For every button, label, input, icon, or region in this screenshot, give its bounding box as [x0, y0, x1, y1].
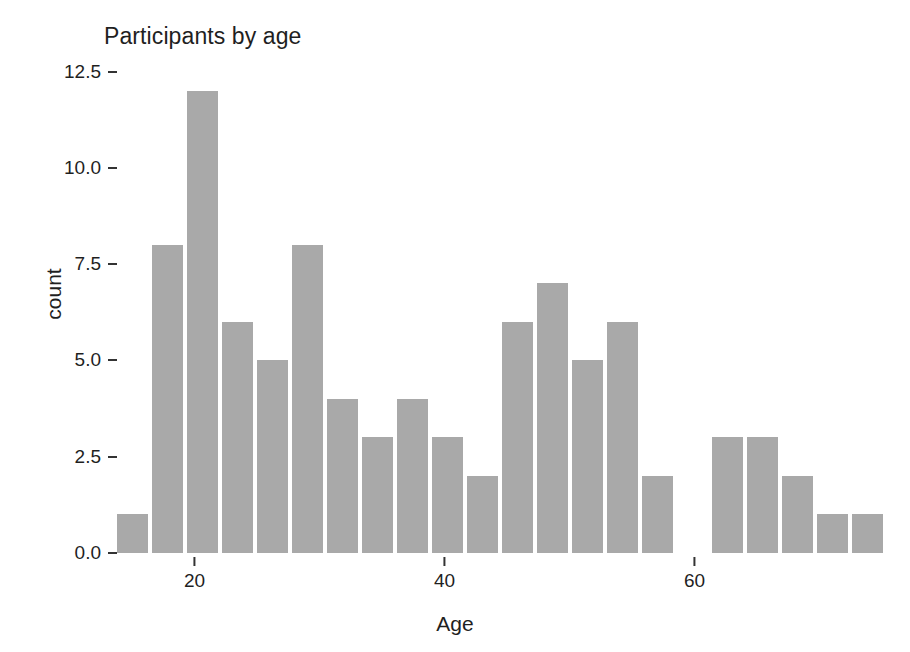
bar: [117, 514, 148, 553]
bar: [782, 476, 813, 553]
y-axis-tick-mark: [108, 263, 117, 265]
bar: [537, 283, 568, 553]
bar: [817, 514, 848, 553]
x-axis-tick-label: 20: [184, 570, 205, 592]
y-axis-tick-mark: [108, 552, 117, 554]
bar: [607, 322, 638, 553]
y-axis-tick: 5.0: [75, 349, 117, 371]
x-axis-tick-mark: [443, 557, 445, 566]
bar: [152, 245, 183, 553]
y-axis-tick-label: 10.0: [64, 157, 108, 179]
chart-title: Participants by age: [104, 22, 302, 50]
y-axis-label: count: [42, 234, 66, 354]
x-axis-tick-mark: [693, 557, 695, 566]
x-axis-tick-label: 40: [434, 570, 455, 592]
bar: [712, 437, 743, 553]
y-axis-tick-label: 12.5: [64, 61, 108, 83]
y-axis-tick: 7.5: [75, 253, 117, 275]
y-axis-tick: 0.0: [75, 542, 117, 564]
y-axis-tick-mark: [108, 359, 117, 361]
x-axis-tick: 40: [434, 553, 455, 592]
bar: [397, 399, 428, 553]
bar: [852, 514, 883, 553]
bar: [642, 476, 673, 553]
x-axis-tick: 60: [684, 553, 705, 592]
x-axis-label: Age: [0, 612, 910, 636]
bar: [257, 360, 288, 553]
y-axis-tick: 10.0: [64, 157, 117, 179]
bar: [747, 437, 778, 553]
y-axis-tick-label: 5.0: [75, 349, 108, 371]
bar: [502, 322, 533, 553]
bar: [432, 437, 463, 553]
y-axis-tick-label: 2.5: [75, 446, 108, 468]
bar: [222, 322, 253, 553]
bar: [362, 437, 393, 553]
y-axis-tick: 2.5: [75, 446, 117, 468]
bar: [467, 476, 498, 553]
bar: [572, 360, 603, 553]
y-axis-tick-mark: [108, 71, 117, 73]
bar: [327, 399, 358, 553]
x-axis-tick: 20: [184, 553, 205, 592]
y-axis-tick: 12.5: [64, 61, 117, 83]
y-axis-tick-label: 0.0: [75, 542, 108, 564]
bar-series: [117, 60, 897, 553]
y-axis-tick-mark: [108, 456, 117, 458]
bar: [292, 245, 323, 553]
bar: [187, 91, 218, 553]
y-axis-tick-label: 7.5: [75, 253, 108, 275]
plot-panel: 0.02.55.07.510.012.5 204060: [117, 60, 897, 553]
x-axis-tick-label: 60: [684, 570, 705, 592]
chart-page: Participants by age count Age 0.02.55.07…: [0, 0, 910, 652]
x-axis-tick-mark: [193, 557, 195, 566]
y-axis-tick-mark: [108, 167, 117, 169]
